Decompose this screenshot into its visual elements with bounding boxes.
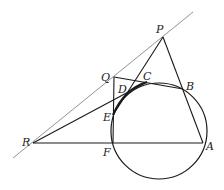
- segment-P-A: [163, 37, 203, 143]
- point-label-Q: Q: [101, 71, 110, 84]
- segment-P-E: [113, 37, 163, 115]
- point-label-C: C: [143, 70, 152, 83]
- point-labels: PQCBDERFA: [21, 23, 214, 159]
- point-label-F: F: [102, 146, 111, 159]
- tangent-line-R-Q-P: [13, 12, 193, 158]
- point-label-D: D: [117, 83, 127, 96]
- circle: [111, 83, 207, 179]
- point-label-E: E: [102, 111, 111, 124]
- point-label-A: A: [205, 140, 214, 153]
- point-label-R: R: [21, 136, 30, 149]
- point-label-P: P: [155, 23, 164, 36]
- point-label-B: B: [185, 80, 194, 93]
- geometry-diagram: PQCBDERFA: [0, 0, 224, 190]
- segment-Q-F: [113, 77, 114, 143]
- diagram-canvas: PQCBDERFA: [0, 0, 224, 190]
